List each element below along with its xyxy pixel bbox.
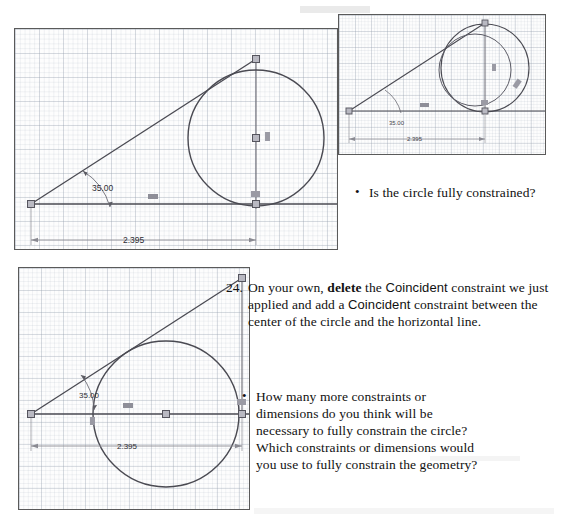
- dimension-arrow-right: [235, 444, 242, 448]
- endpoint-origin[interactable]: [28, 201, 35, 208]
- dimension-arrow-left: [349, 137, 355, 141]
- inclined-line[interactable]: [31, 59, 256, 204]
- step-24: 24. On your own, delete the Coincident c…: [226, 279, 551, 330]
- figure-top-right: 35.00 2.395: [338, 14, 546, 155]
- circle-center-point[interactable]: [163, 411, 170, 418]
- bullet-icon: •: [355, 184, 369, 200]
- scan-artifact: [254, 508, 554, 514]
- cad-canvas-top-left: 35.00 2.395: [14, 28, 338, 250]
- coincident-constraint-icon: [251, 191, 260, 197]
- scan-artifact: [430, 456, 520, 461]
- dimension-arrow-left: [31, 238, 38, 242]
- dimension-arrow-left: [31, 444, 38, 448]
- step-text-part-1: On your own,: [248, 280, 327, 295]
- endpoint-origin[interactable]: [346, 108, 352, 114]
- endpoint-line-top[interactable]: [253, 56, 260, 63]
- bullet-icon: •: [242, 388, 256, 404]
- figure-bottom-left: 35.00 2.395: [18, 267, 250, 510]
- question-line-3: necessary to fully constrain the circle?: [256, 422, 564, 439]
- horizontal-constraint-icon: [123, 403, 133, 408]
- angle-dimension-label: 35.00: [92, 183, 114, 193]
- endpoint-line-top[interactable]: [482, 20, 488, 26]
- constraint-name-coincident-1: Coincident: [385, 280, 447, 295]
- angle-arrow-head-top: [83, 171, 88, 176]
- question-line-2: dimensions do you think will be: [256, 405, 564, 422]
- sketch-geometry-top-left: 35.00 2.395: [15, 29, 338, 250]
- sketch-geometry-top-right: 35.00 2.395: [339, 15, 546, 155]
- constraint-name-coincident-2: Coincident: [348, 297, 410, 312]
- question-line-4: Which constraints or dimensions would: [256, 439, 564, 456]
- endpoint-horizontal-right[interactable]: [253, 201, 260, 208]
- numbered-row: 24. On your own, delete the Coincident c…: [226, 279, 551, 330]
- endpoint-horizontal-right[interactable]: [482, 108, 488, 114]
- dimension-arrow-right: [479, 137, 485, 141]
- scan-artifact: [300, 6, 370, 13]
- cad-canvas-bottom-left: 35.00 2.395: [18, 267, 250, 510]
- document-page: 35.00 2.395: [0, 0, 567, 522]
- inclined-line[interactable]: [31, 278, 242, 414]
- linear-dimension-label: 2.395: [123, 235, 145, 245]
- step-body: On your own, delete the Coincident const…: [248, 279, 551, 330]
- angle-dimension-label: 35.00: [79, 391, 100, 400]
- circle-entity-dragged[interactable]: [439, 34, 511, 106]
- step-bold-delete: delete: [327, 280, 361, 295]
- linear-dimension-label: 2.395: [117, 442, 138, 451]
- coincident-constraint-icon: [481, 100, 488, 105]
- step-number: 24.: [226, 279, 248, 296]
- angle-dimension-arc: [385, 90, 401, 113]
- question-line-1: How many more constraints or: [256, 388, 564, 405]
- figure-top-left: 35.00 2.395: [14, 28, 338, 250]
- step-text-part-2: the: [362, 280, 386, 295]
- circle-center-point[interactable]: [253, 135, 260, 142]
- inclined-line[interactable]: [349, 23, 485, 111]
- horizontal-constraint-icon: [148, 194, 158, 199]
- linear-dimension-label: 2.395: [407, 136, 423, 142]
- vertical-constraint-icon: [249, 360, 250, 369]
- vertical-constraint-icon: [265, 132, 270, 141]
- dimension-arrow-right: [249, 238, 256, 242]
- question-circle-fully-constrained: • Is the circle fully constrained?: [355, 184, 560, 201]
- question-text: Is the circle fully constrained?: [369, 184, 560, 201]
- tangent-constraint-icon: [90, 417, 95, 425]
- bullet-row: • Is the circle fully constrained?: [355, 184, 560, 201]
- endpoint-origin[interactable]: [28, 411, 35, 418]
- sketch-geometry-bottom-left: 35.00 2.395: [19, 268, 250, 510]
- cad-canvas-top-right: 35.00 2.395: [338, 14, 546, 155]
- angle-dimension-label: 35.00: [389, 120, 405, 126]
- vertical-constraint-icon: [492, 64, 496, 71]
- horizontal-constraint-icon: [420, 103, 429, 107]
- tangent-constraint-icon: [512, 79, 521, 89]
